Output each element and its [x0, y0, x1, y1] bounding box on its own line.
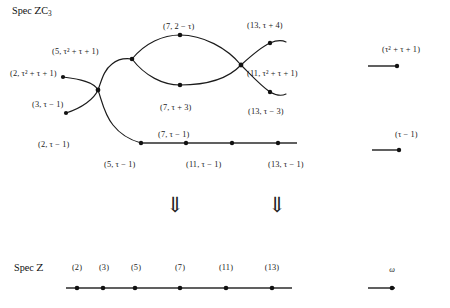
node-prime-3	[101, 286, 106, 291]
label-prime-5: (5)	[131, 264, 141, 272]
label-prime-11: (11)	[219, 264, 233, 272]
curve-tail-to-p13-upper	[241, 41, 286, 65]
node-prime-5	[133, 286, 138, 291]
label-p13-lower: (13, τ − 3)	[248, 108, 284, 116]
node-p3	[96, 88, 101, 93]
curve-lens-lower	[132, 59, 241, 85]
bottom-heading-prefix: Spec	[14, 262, 36, 273]
label-p13-upper: (13, τ + 4)	[247, 22, 283, 30]
node-generic-point	[390, 286, 395, 291]
label-p2-cyclotomic: (2, τ² + τ + 1)	[10, 70, 57, 78]
label-p5-cyclotomic: (5, τ² + τ + 1)	[52, 48, 99, 56]
label-p2-augmentation: (2, τ − 1)	[38, 141, 69, 149]
node-p5-cyclotomic	[130, 57, 135, 62]
label-generic-point: ω	[389, 265, 395, 274]
label-prime-13: (13)	[265, 264, 279, 272]
node-p11-cyclotomic	[239, 63, 244, 68]
curve-junction-to-p2-aug	[66, 90, 98, 113]
label-p11-augmentation: (11, τ − 1)	[186, 161, 221, 169]
bottom-scheme-heading: Spec Z	[14, 263, 43, 273]
label-generic-cyclotomic: (τ² + τ + 1)	[382, 46, 420, 54]
bottom-heading-ring: Z	[36, 262, 43, 273]
label-generic-augmentation: (τ − 1)	[395, 131, 418, 139]
node-generic-augmentation	[397, 148, 401, 152]
node-p11-augmentation	[230, 141, 234, 145]
label-prime-3: (3)	[99, 264, 109, 272]
label-prime-7: (7)	[175, 264, 185, 272]
label-prime-2: (2)	[72, 264, 82, 272]
node-generic-cyclotomic	[395, 64, 399, 68]
node-p5-augmentation	[139, 141, 143, 145]
curve-junction-to-p5-cyclo	[98, 59, 132, 90]
node-prime-11	[224, 286, 229, 291]
node-p13-upper	[268, 41, 272, 45]
curve-lens-upper	[132, 35, 241, 65]
label-p3: (3, τ − 1)	[32, 101, 63, 109]
node-p7-middle	[178, 83, 183, 88]
projection-arrow-right: ⇓	[268, 195, 286, 216]
node-p7-top	[178, 33, 183, 38]
node-prime-7	[178, 286, 183, 291]
node-prime-2	[75, 286, 80, 291]
node-p2-cyclotomic	[61, 75, 65, 79]
node-prime-13	[270, 286, 275, 291]
projection-arrow-left: ⇓	[166, 195, 184, 216]
node-p13-lower	[268, 90, 272, 94]
label-p7-augmentation: (7, τ − 1)	[158, 131, 189, 139]
node-p7-augmentation	[184, 141, 188, 145]
curve-junction-to-augmentation-line	[98, 90, 141, 143]
label-p11-cyclotomic: (11, τ² + τ + 1)	[247, 70, 298, 78]
label-p7-middle: (7, τ + 3)	[160, 104, 191, 112]
node-p2-augmentation	[64, 111, 68, 115]
curve-p2-cyclo-to-junction	[63, 77, 98, 90]
label-p13-augmentation: (13, τ − 1)	[268, 161, 304, 169]
label-p7-top: (7, 2 − τ)	[163, 23, 194, 31]
node-p13-augmentation	[276, 141, 280, 145]
figure-canvas: Spec ZC3	[0, 0, 450, 308]
label-p5-augmentation: (5, τ − 1)	[104, 161, 135, 169]
